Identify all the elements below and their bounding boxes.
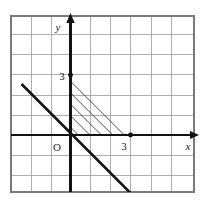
- graph-canvas: y x O 3 3: [0, 0, 208, 203]
- x-axis-label: x: [185, 140, 191, 152]
- y-axis-label: y: [55, 21, 61, 33]
- origin-label: O: [53, 141, 61, 153]
- x-intercept-marker: [128, 133, 133, 138]
- y-intercept-marker: [68, 73, 73, 78]
- x-tick-label-3: 3: [121, 140, 127, 152]
- coordinate-plane-figure: y x O 3 3: [0, 0, 208, 203]
- y-tick-label-3: 3: [59, 70, 65, 82]
